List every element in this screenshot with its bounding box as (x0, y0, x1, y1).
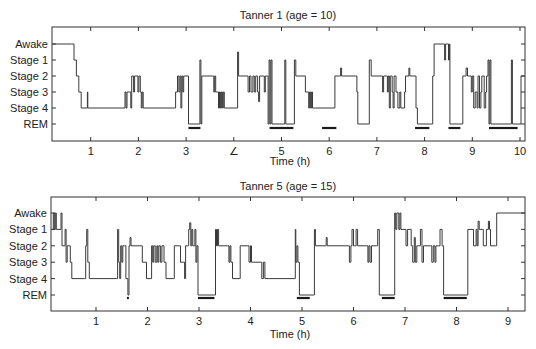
hypnogram-line (52, 213, 525, 295)
x-tick-label: 3 (196, 315, 202, 327)
y-tick-label: Awake (15, 38, 48, 50)
x-tick-label: 7 (374, 145, 380, 157)
y-tick-label: Stage 4 (9, 273, 47, 285)
y-axis: AwakeStage 1Stage 2Stage 3Stage 4REM (10, 38, 525, 130)
x-tick-label: 1 (88, 145, 94, 157)
x-tick-label: 2 (135, 145, 141, 157)
x-tick-label: 9 (505, 315, 511, 327)
x-tick-label: 7 (402, 315, 408, 327)
x-tick-label: 8 (422, 145, 428, 157)
y-tick-label: Stage 1 (10, 54, 48, 66)
x-tick-label: 2 (144, 315, 150, 327)
y-tick-label: Stage 3 (10, 86, 48, 98)
hypnogram-figure: Tanner 1 (age = 10) AwakeStage 1Stage 2S… (0, 0, 536, 349)
x-axis-label: Time (h) (270, 155, 311, 167)
x-axis-label: Time (h) (270, 328, 311, 340)
hypnogram-line (53, 44, 525, 124)
x-tick-label: 8 (453, 315, 459, 327)
x-tick-label: 4 (247, 315, 253, 327)
panel-title: Tanner 1 (age = 10) (240, 9, 336, 21)
x-tick-label: 5 (299, 315, 305, 327)
x-tick-label: 10 (514, 145, 526, 157)
x-tick-label: 3 (183, 145, 189, 157)
x-tick-label: 9 (469, 145, 475, 157)
x-tick-label: ∠ (229, 145, 239, 157)
panel-tanner-1: Tanner 1 (age = 10) AwakeStage 1Stage 2S… (10, 9, 526, 167)
x-tick-label: 6 (350, 315, 356, 327)
x-tick-label: 1 (93, 315, 99, 327)
hypnogram-trace (52, 213, 525, 295)
y-tick-label: Awake (14, 207, 47, 219)
y-tick-label: Stage 2 (9, 240, 47, 252)
y-tick-label: REM (24, 118, 48, 130)
y-axis: AwakeStage 1Stage 2Stage 3Stage 4REM (9, 207, 525, 301)
hypnogram-trace (53, 44, 525, 124)
y-tick-label: REM (23, 289, 47, 301)
y-tick-label: Stage 2 (10, 70, 48, 82)
x-tick-label: 6 (326, 145, 332, 157)
y-tick-label: Stage 3 (9, 256, 47, 268)
y-tick-label: Stage 1 (9, 223, 47, 235)
panel-title: Tanner 5 (age = 15) (240, 180, 336, 192)
panel-tanner-5: Tanner 5 (age = 15) AwakeStage 1Stage 2S… (9, 180, 525, 340)
y-tick-label: Stage 4 (10, 102, 48, 114)
